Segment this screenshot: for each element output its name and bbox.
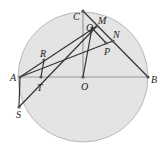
point-B — [146, 75, 149, 78]
geometry-diagram: A B O C M Q N P R T S — [0, 0, 165, 154]
label-P: P — [103, 46, 110, 57]
point-C — [81, 9, 84, 12]
point-A — [18, 75, 21, 78]
label-B: B — [151, 74, 157, 85]
point-P — [104, 41, 107, 44]
label-N: N — [112, 29, 121, 40]
label-M: M — [97, 15, 107, 26]
label-S: S — [16, 109, 21, 120]
point-O — [81, 75, 84, 78]
label-O: O — [81, 81, 88, 92]
label-R: R — [39, 48, 46, 59]
point-T — [39, 75, 42, 78]
label-Q: Q — [86, 22, 94, 33]
label-A: A — [9, 72, 17, 83]
label-C: C — [73, 11, 80, 22]
